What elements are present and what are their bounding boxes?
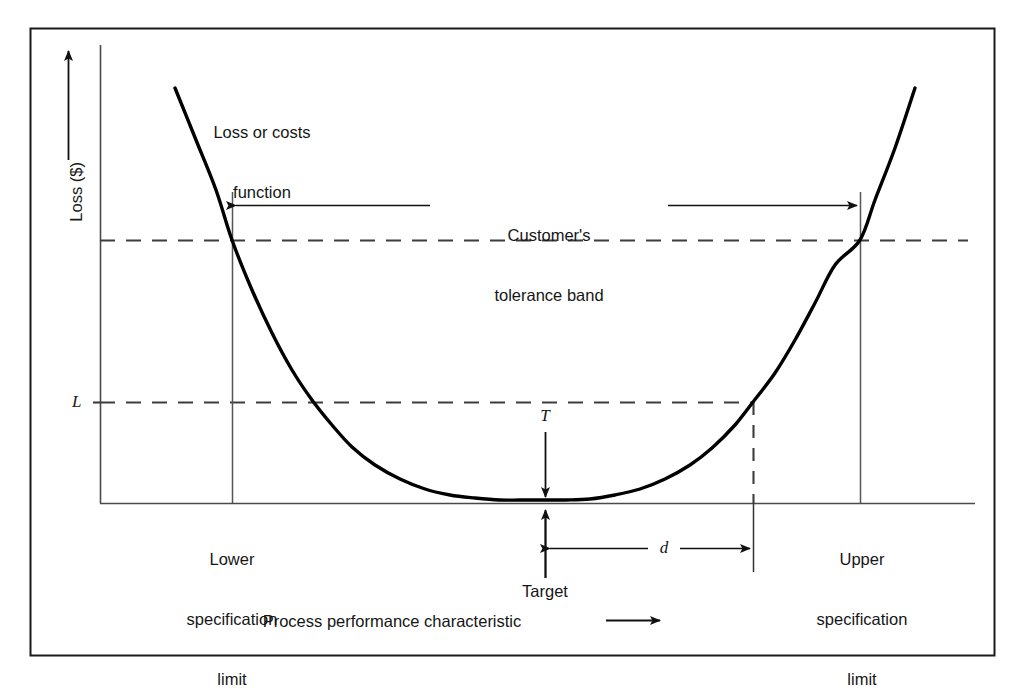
x-axis-label: Process performance characteristic [263, 611, 522, 631]
upper-spec-line-2: specification [817, 609, 908, 629]
curve-label-line-2: function [213, 182, 310, 202]
lower-spec-line-3: limit [187, 669, 278, 688]
lower-specification-limit-label: Lower specification limit [187, 509, 278, 688]
target-symbol-label: T [540, 406, 549, 426]
tolerance-band-line-1: Customer's [494, 225, 603, 245]
y-axis-tick-label-L: L [72, 392, 81, 412]
taguchi-loss-function-figure: Loss ($) L Loss or costs function Custom… [0, 0, 1021, 688]
curve-label: Loss or costs function [213, 82, 310, 242]
tolerance-band-line-2: tolerance band [494, 285, 603, 305]
target-label: Target [522, 581, 568, 601]
upper-spec-line-3: limit [817, 669, 908, 688]
y-axis-label: Loss ($) [48, 162, 105, 240]
lower-spec-line-1: Lower [187, 549, 278, 569]
curve-label-line-1: Loss or costs [213, 122, 310, 142]
upper-specification-limit-label: Upper specification limit [817, 509, 908, 688]
upper-spec-line-1: Upper [817, 549, 908, 569]
y-axis-label-text: Loss ($) [67, 162, 85, 222]
tolerance-band-label: Customer's tolerance band [494, 185, 603, 345]
deviation-symbol-label: d [660, 538, 669, 558]
